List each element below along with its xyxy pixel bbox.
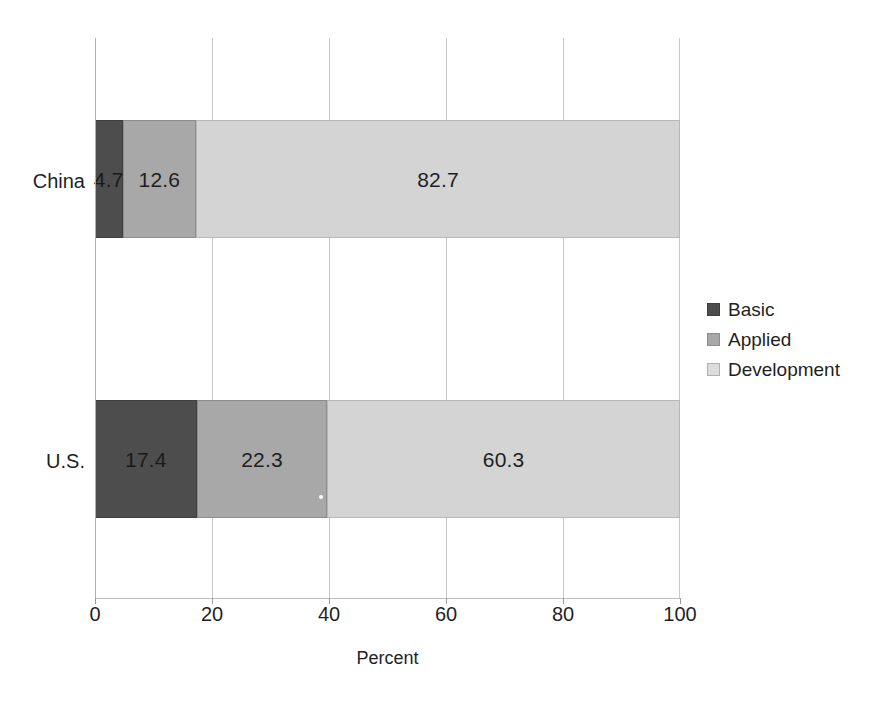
bar-segment-label: 82.7 <box>417 169 459 190</box>
legend-label: Applied <box>728 330 791 349</box>
category-label-china: China <box>0 171 85 191</box>
x-tick-label: 40 <box>294 604 364 624</box>
bar-row: 4.7 12.6 82.7 <box>95 120 680 238</box>
bar-segment-basic: 17.4 <box>95 400 197 518</box>
bar-segment-applied: 12.6 <box>123 120 197 238</box>
x-tick-label: 20 <box>177 604 247 624</box>
chart-legend: Basic Applied Development <box>707 296 840 386</box>
y-axis-line <box>95 38 96 598</box>
legend-swatch-icon <box>707 363 720 376</box>
bar-segment-basic: 4.7 <box>95 120 123 238</box>
legend-swatch-icon <box>707 333 720 346</box>
category-label-us: U.S. <box>0 451 85 471</box>
bar-segment-label: 12.6 <box>139 169 181 190</box>
legend-item-applied: Applied <box>707 326 840 353</box>
image-speck <box>319 495 323 499</box>
bar-segment-applied: 22.3 <box>197 400 328 518</box>
stacked-bar-chart: 4.7 12.6 82.7 17.4 22.3 60.3 China <box>0 0 881 705</box>
bar-segment-label: 4.7 <box>94 169 124 190</box>
legend-item-development: Development <box>707 356 840 383</box>
legend-label: Basic <box>728 300 774 319</box>
bar-segment-development: 60.3 <box>327 400 680 518</box>
plot-area: 4.7 12.6 82.7 17.4 22.3 60.3 <box>95 38 680 598</box>
bar-segment-label: 17.4 <box>125 449 167 470</box>
legend-swatch-icon <box>707 303 720 316</box>
bar-row: 17.4 22.3 60.3 <box>95 400 680 518</box>
legend-label: Development <box>728 360 840 379</box>
x-axis-title: Percent <box>95 648 680 669</box>
x-tick-label: 80 <box>528 604 598 624</box>
bar-segment-development: 82.7 <box>196 120 680 238</box>
x-tick-label: 100 <box>645 604 715 624</box>
bar-segment-label: 60.3 <box>483 449 525 470</box>
x-axis-line <box>95 598 680 599</box>
x-tick-label: 60 <box>411 604 481 624</box>
bar-segment-label: 22.3 <box>241 449 283 470</box>
x-tick-label: 0 <box>60 604 130 624</box>
legend-item-basic: Basic <box>707 296 840 323</box>
